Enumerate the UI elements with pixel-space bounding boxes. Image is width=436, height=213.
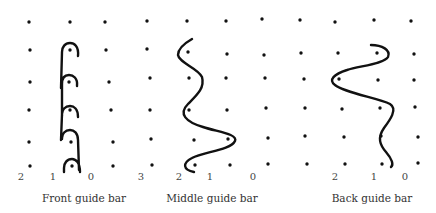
needle-space-label: 3 <box>138 172 144 182</box>
needle-point-dot <box>413 105 416 108</box>
needle-space-label: 1 <box>207 172 213 182</box>
middle-guide-bar-lapping-curve <box>178 39 235 172</box>
needle-point-dot <box>69 140 72 143</box>
needle-point-dot <box>375 51 378 54</box>
needle-point-dot <box>333 20 336 23</box>
needle-space-label: 2 <box>18 172 24 182</box>
front-guide-bar-caption: Front guide bar <box>42 193 126 204</box>
needle-point-dot <box>27 20 30 23</box>
needle-point-dot <box>266 162 269 165</box>
needle-point-dot <box>378 106 381 109</box>
needle-point-dot <box>372 18 375 21</box>
needle-point-dot <box>186 50 189 53</box>
needle-space-label: 1 <box>371 172 377 182</box>
needle-point-dot <box>302 77 305 80</box>
needle-point-dot <box>145 19 148 22</box>
needle-point-dot <box>148 108 151 111</box>
needle-point-dot <box>104 48 107 51</box>
needle-point-dot <box>28 48 31 51</box>
needle-point-dot <box>148 76 151 79</box>
needle-point-dot <box>337 77 340 80</box>
needle-point-dot <box>187 76 190 79</box>
needle-point-dot <box>67 80 70 83</box>
needle-space-label: 0 <box>250 172 256 182</box>
needle-point-dot <box>107 80 110 83</box>
middle-guide-bar-caption: Middle guide bar <box>166 193 258 204</box>
needle-point-dot <box>27 108 30 111</box>
needle-point-dot <box>266 136 269 139</box>
needle-point-dot <box>193 163 196 166</box>
needle-point-dot <box>260 17 263 20</box>
panel-front <box>27 20 114 172</box>
needle-space-label: 0 <box>88 172 94 182</box>
needle-point-dot <box>28 80 31 83</box>
needle-point-dot <box>224 19 227 22</box>
needle-point-dot <box>224 76 227 79</box>
needle-point-dot <box>70 164 73 167</box>
needle-point-dot <box>109 108 112 111</box>
needle-point-dot <box>226 137 229 140</box>
needle-point-dot <box>28 164 31 167</box>
needle-point-dot <box>68 20 71 23</box>
needle-point-dot <box>336 51 339 54</box>
needle-point-dot <box>228 163 231 166</box>
needle-point-dot <box>192 138 195 141</box>
needle-point-dot <box>111 140 114 143</box>
needle-point-dot <box>412 78 415 81</box>
needle-point-dot <box>225 108 228 111</box>
needle-point-dot <box>303 106 306 109</box>
panel-back <box>298 18 419 167</box>
panel-middle <box>145 17 269 172</box>
needle-point-dot <box>225 52 228 55</box>
needle-point-dot <box>305 162 308 165</box>
back-guide-bar-lapping-curve <box>332 45 393 167</box>
needle-point-dot <box>264 106 267 109</box>
needle-point-dot <box>343 162 346 165</box>
needle-point-dot <box>299 51 302 54</box>
needle-point-dot <box>416 161 419 164</box>
needle-point-dot <box>380 162 383 165</box>
needle-point-dot <box>185 19 188 22</box>
needle-space-label: 1 <box>50 172 56 182</box>
needle-space-label: 0 <box>402 172 408 182</box>
lapping-diagram: 210Front guide bar3210Middle guide bar21… <box>0 0 436 213</box>
needle-point-dot <box>103 20 106 23</box>
needle-point-dot <box>111 164 114 167</box>
needle-point-dot <box>149 137 152 140</box>
needle-point-dot <box>412 52 415 55</box>
needle-point-dot <box>263 76 266 79</box>
needle-point-dot <box>262 53 265 56</box>
needle-point-dot <box>303 134 306 137</box>
needle-point-dot <box>68 48 71 51</box>
needle-point-dot <box>150 163 153 166</box>
needle-space-label: 2 <box>332 172 338 182</box>
needle-point-dot <box>187 108 190 111</box>
needle-point-dot <box>68 108 71 111</box>
front-guide-bar-lapping-curve <box>61 43 80 172</box>
back-guide-bar-caption: Back guide bar <box>332 193 413 204</box>
needle-point-dot <box>340 107 343 110</box>
needle-point-dot <box>298 18 301 21</box>
needle-point-dot <box>342 135 345 138</box>
needle-point-dot <box>409 19 412 22</box>
needle-space-label: 2 <box>176 172 182 182</box>
needle-point-dot <box>416 135 419 138</box>
needle-point-dot <box>376 78 379 81</box>
needle-point-dot <box>27 140 30 143</box>
needle-point-dot <box>145 47 148 50</box>
